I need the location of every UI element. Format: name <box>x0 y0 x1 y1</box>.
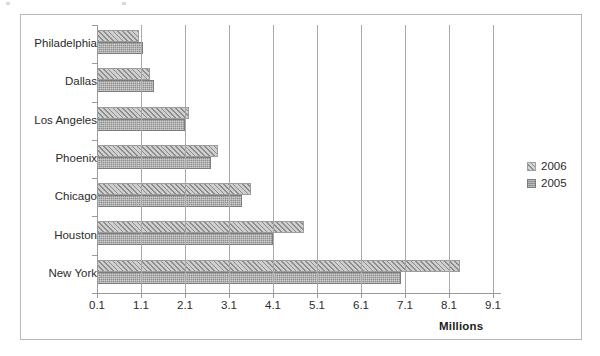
x-axis-tick <box>361 293 362 298</box>
x-axis-tick-label: 6.1 <box>341 300 381 312</box>
bar-2005-philadelphia <box>97 42 143 54</box>
x-axis-tick-label: 5.1 <box>297 300 337 312</box>
bar-group-chicago <box>97 178 477 216</box>
clipped-text-artifact <box>122 2 126 5</box>
y-axis-label-new-york: New York <box>0 268 97 280</box>
gridline <box>97 25 98 293</box>
x-axis-baseline <box>97 293 501 294</box>
x-axis-tick-label: 4.1 <box>253 300 293 312</box>
bar-2006-los-angeles <box>97 107 189 119</box>
bar-2005-phoenix <box>97 157 211 169</box>
y-axis-label-phoenix: Phoenix <box>0 153 97 165</box>
x-axis-tick <box>141 293 142 298</box>
x-axis-tick <box>229 293 230 298</box>
clipped-text-artifact <box>6 2 10 5</box>
x-axis-tick-label: 0.1 <box>77 300 117 312</box>
y-axis-tick <box>92 255 97 256</box>
x-axis-tick <box>97 293 98 298</box>
bar-2005-dallas <box>97 80 154 92</box>
y-axis-label-dallas: Dallas <box>0 76 97 88</box>
x-axis-tick <box>449 293 450 298</box>
bar-group-phoenix <box>97 140 477 178</box>
gridline <box>361 25 362 293</box>
bar-2006-chicago <box>97 183 251 195</box>
x-axis-tick <box>493 293 494 298</box>
legend-label-2005: 2005 <box>541 178 567 190</box>
y-axis-label-los-angeles: Los Angeles <box>0 115 97 127</box>
y-axis-tick <box>92 25 97 26</box>
x-axis-title: Millions <box>439 320 483 332</box>
y-axis-tick <box>92 63 97 64</box>
x-axis-tick-label: 1.1 <box>121 300 161 312</box>
y-axis-label-chicago: Chicago <box>0 191 97 203</box>
bar-2006-phoenix <box>97 145 218 157</box>
gridline <box>449 25 450 293</box>
gridline <box>185 25 186 293</box>
bar-2006-philadelphia <box>97 30 139 42</box>
chart-frame: Millions 2006 2005 PhiladelphiaDallasLos… <box>20 14 582 340</box>
legend-swatch-2005-icon <box>527 179 536 188</box>
gridline <box>273 25 274 293</box>
bar-2005-new-york <box>97 272 401 284</box>
gridline <box>317 25 318 293</box>
legend-item-2005: 2005 <box>527 175 587 192</box>
legend-swatch-2006-icon <box>527 162 536 171</box>
gridline <box>141 25 142 293</box>
x-axis-tick-label: 9.1 <box>473 300 513 312</box>
y-axis-label-philadelphia: Philadelphia <box>0 38 97 50</box>
y-axis-tick <box>92 102 97 103</box>
x-axis-tick-label: 7.1 <box>385 300 425 312</box>
bar-group-los-angeles <box>97 102 477 140</box>
y-axis-label-houston: Houston <box>0 230 97 242</box>
bar-group-new-york <box>97 255 477 293</box>
bar-2005-chicago <box>97 195 242 207</box>
x-axis-tick-label: 3.1 <box>209 300 249 312</box>
bar-group-houston <box>97 216 477 254</box>
gridline <box>405 25 406 293</box>
plot-area <box>97 25 477 293</box>
y-axis-tick <box>92 140 97 141</box>
bar-group-philadelphia <box>97 25 477 63</box>
bar-group-dallas <box>97 63 477 101</box>
x-axis-tick-label: 8.1 <box>429 300 469 312</box>
y-axis-tick <box>92 216 97 217</box>
legend-item-2006: 2006 <box>527 158 587 175</box>
chart-legend: 2006 2005 <box>527 158 587 192</box>
x-axis-tick <box>405 293 406 298</box>
legend-label-2006: 2006 <box>541 161 567 173</box>
gridline <box>229 25 230 293</box>
x-axis-tick <box>273 293 274 298</box>
gridline <box>493 25 494 293</box>
x-axis-tick-label: 2.1 <box>165 300 205 312</box>
y-axis-tick <box>92 178 97 179</box>
x-axis-tick <box>185 293 186 298</box>
x-axis-tick <box>317 293 318 298</box>
